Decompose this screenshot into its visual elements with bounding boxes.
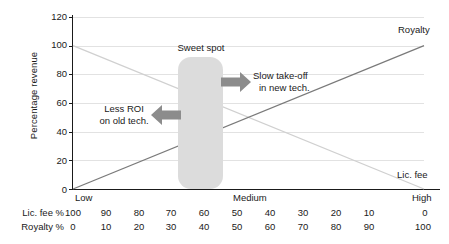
annotation-line: Less ROI (93, 103, 155, 115)
annotation-line: on old tech. (93, 115, 155, 127)
x-category-label-low: Low (75, 192, 92, 203)
table-cell: 30 (288, 207, 318, 218)
annotation-less-roi: Less ROI on old tech. (93, 103, 155, 127)
table-row-label-lic-fee: Lic. fee % (4, 207, 64, 218)
table-cell: 100 (58, 207, 88, 218)
table-cell: 10 (354, 207, 384, 218)
sweet-spot-box (178, 57, 223, 189)
table-cell: 10 (91, 221, 121, 232)
arrow-left-icon (151, 104, 181, 126)
y-tick-label: 0 (41, 185, 67, 195)
table-cell: 90 (91, 207, 121, 218)
y-tick-label: 120 (41, 12, 67, 22)
y-tick-label: 80 (41, 69, 67, 79)
x-category-label-medium: Medium (233, 192, 267, 203)
table-cell: 60 (189, 207, 219, 218)
y-tick-label: 60 (41, 98, 67, 108)
x-axis-line (72, 189, 440, 190)
table-cell: 60 (255, 221, 285, 232)
table-cell: 70 (156, 207, 186, 218)
series-label-lic-fee: Lic. fee (397, 169, 428, 180)
table-cell: 80 (124, 207, 154, 218)
sweet-spot-label: Sweet spot (162, 42, 240, 53)
table-cell: 50 (222, 221, 252, 232)
table-cell: 50 (222, 207, 252, 218)
annotation-slow-takeoff: Slow take-off in new tech. (253, 70, 341, 94)
y-tick-label: 40 (41, 127, 67, 137)
table-cell: 40 (189, 221, 219, 232)
table-cell: 70 (288, 221, 318, 232)
table-cell: 100 (408, 221, 438, 232)
data-table: Lic. fee % Royalty % 100 90 80 70 60 50 … (0, 207, 449, 239)
series-label-royalty: Royalty (398, 24, 430, 35)
table-row-label-royalty: Royalty % (4, 221, 64, 232)
y-axis-title: Percentage revenue (28, 16, 39, 176)
annotation-line: in new tech. (253, 82, 341, 94)
chart-container: Percentage revenue 120 100 80 60 40 20 0 (0, 0, 449, 244)
y-tick-label: 100 (41, 40, 67, 50)
y-tick-label: 20 (41, 156, 67, 166)
table-cell: 20 (124, 221, 154, 232)
table-cell: 30 (156, 221, 186, 232)
arrow-right-icon (221, 71, 251, 93)
table-cell: 90 (354, 221, 384, 232)
x-category-label-high: High (412, 192, 432, 203)
table-cell: 20 (321, 207, 351, 218)
table-cell: 0 (410, 207, 440, 218)
table-cell: 80 (321, 221, 351, 232)
table-cell: 40 (255, 207, 285, 218)
table-cell: 0 (58, 221, 88, 232)
annotation-line: Slow take-off (253, 70, 341, 82)
